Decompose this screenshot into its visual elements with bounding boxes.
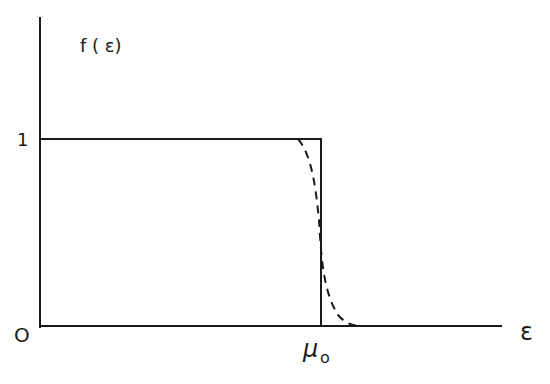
fermi-diagram: f ( ε) 1 O ε μ o <box>0 0 550 384</box>
y-axis-label: f ( ε) <box>80 35 122 56</box>
mu-label: μ <box>302 335 318 363</box>
origin-label: O <box>14 323 30 347</box>
mu-subscript: o <box>320 348 330 367</box>
dashed-fermi-curve <box>298 139 362 326</box>
y-tick-one: 1 <box>17 129 28 150</box>
mu-symbol: μ <box>302 335 318 363</box>
x-axis-label: ε <box>520 318 533 346</box>
